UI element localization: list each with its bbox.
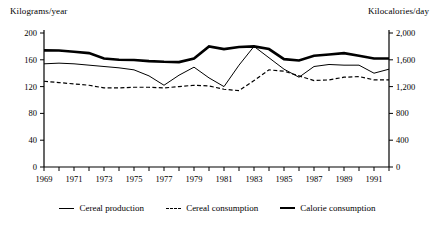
- svg-text:120: 120: [24, 82, 37, 92]
- legend-label: Cereal consumption: [186, 203, 258, 213]
- cereal-calorie-line-chart: Kilograms/year Kilocalories/day 04080120…: [0, 0, 435, 232]
- line-dashed-icon: [166, 208, 181, 209]
- svg-text:1977: 1977: [156, 174, 173, 184]
- svg-text:1969: 1969: [36, 174, 53, 184]
- svg-text:160: 160: [24, 55, 37, 65]
- right-axis-ticks: 04008001,2001,6002,000: [389, 28, 415, 172]
- svg-text:1991: 1991: [366, 174, 383, 184]
- svg-text:1985: 1985: [276, 174, 293, 184]
- svg-text:400: 400: [396, 135, 409, 145]
- svg-text:200: 200: [24, 28, 37, 38]
- svg-text:1979: 1979: [186, 174, 203, 184]
- legend-item-cereal-consumption: Cereal consumption: [166, 203, 258, 213]
- svg-text:1971: 1971: [66, 174, 83, 184]
- plot-area: 04080120160200 04008001,2001,6002,000 19…: [0, 0, 435, 232]
- legend-label: Cereal production: [79, 203, 144, 213]
- left-axis-ticks: 04080120160200: [24, 28, 44, 172]
- svg-text:80: 80: [29, 108, 38, 118]
- svg-text:1987: 1987: [306, 174, 323, 184]
- svg-text:0: 0: [396, 162, 400, 172]
- svg-text:1989: 1989: [336, 174, 353, 184]
- svg-text:1,200: 1,200: [396, 82, 415, 92]
- series-layer: [44, 46, 389, 90]
- chart-legend: Cereal production Cereal consumption Cal…: [0, 203, 435, 213]
- legend-label: Calorie consumption: [300, 203, 375, 213]
- svg-text:2,000: 2,000: [396, 28, 415, 38]
- line-solid-thick-icon: [280, 207, 295, 209]
- axes: [44, 30, 389, 167]
- svg-text:1,600: 1,600: [396, 55, 415, 65]
- svg-text:1973: 1973: [96, 174, 113, 184]
- x-axis-ticks: 1969197119731975197719791981198319851987…: [36, 167, 390, 184]
- svg-text:1975: 1975: [126, 174, 143, 184]
- legend-item-cereal-production: Cereal production: [59, 203, 144, 213]
- svg-text:0: 0: [33, 162, 37, 172]
- svg-text:1983: 1983: [246, 174, 263, 184]
- svg-text:40: 40: [29, 135, 38, 145]
- line-solid-thin-icon: [59, 208, 74, 209]
- svg-text:1981: 1981: [216, 174, 233, 184]
- legend-item-calorie-consumption: Calorie consumption: [280, 203, 375, 213]
- svg-text:800: 800: [396, 108, 409, 118]
